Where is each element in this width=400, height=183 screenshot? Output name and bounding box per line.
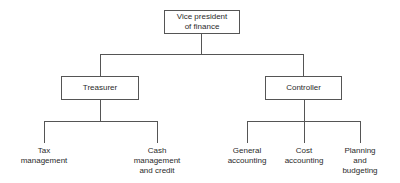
leaf-line1: Cash <box>122 146 192 156</box>
node-label-line1: Vice president <box>177 12 228 22</box>
connector-root-down <box>201 34 202 54</box>
connector-to-planning-and-budgeting <box>360 121 361 143</box>
leaf-line3: and credit <box>122 166 192 176</box>
connector-treasurer-down <box>100 100 101 121</box>
connector-treasurer-horizontal <box>44 121 158 122</box>
leaf-line1: Tax <box>9 146 79 156</box>
node-label: Treasurer <box>83 83 117 93</box>
connector-controller-down <box>304 100 305 121</box>
connector-to-general-accounting <box>247 121 248 143</box>
leaf-line2: management <box>9 156 79 166</box>
leaf-line1: Planning <box>325 146 395 156</box>
connector-to-tax-management <box>44 121 45 143</box>
node-planning-and-budgeting: Planning and budgeting <box>325 146 395 176</box>
connector-to-cash-management <box>157 121 158 143</box>
leaf-line2: management <box>122 156 192 166</box>
connector-to-treasurer <box>100 54 101 76</box>
node-tax-management: Tax management <box>9 146 79 166</box>
node-controller: Controller <box>265 76 342 100</box>
connector-to-cost-accounting <box>304 121 305 143</box>
node-label: Controller <box>286 83 321 93</box>
node-label-line2: of finance <box>177 22 228 32</box>
leaf-line2: and <box>325 156 395 166</box>
leaf-line3: budgeting <box>325 166 395 176</box>
node-vice-president-of-finance: Vice president of finance <box>164 10 240 34</box>
connector-to-controller <box>303 54 304 76</box>
node-treasurer: Treasurer <box>61 76 139 100</box>
connector-level1-horizontal <box>100 54 304 55</box>
node-cash-management-and-credit: Cash management and credit <box>122 146 192 176</box>
